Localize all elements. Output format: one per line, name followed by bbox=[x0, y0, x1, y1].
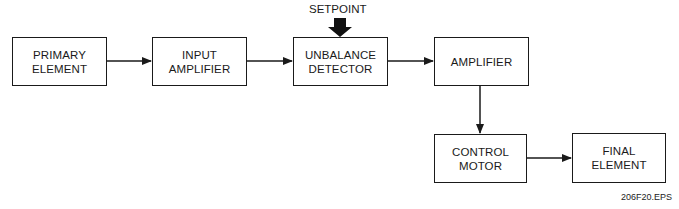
block-label: AMPLIFIER bbox=[451, 55, 513, 69]
setpoint-label: SETPOINT bbox=[309, 3, 367, 15]
figure-caption: 206F20.EPS bbox=[621, 192, 672, 202]
block-label: UNBALANCE DETECTOR bbox=[305, 48, 376, 76]
block-amplifier: AMPLIFIER bbox=[434, 37, 529, 86]
block-label: INPUT AMPLIFIER bbox=[169, 48, 231, 76]
block-label: CONTROL MOTOR bbox=[452, 145, 509, 173]
block-label: FINAL ELEMENT bbox=[591, 144, 646, 172]
setpoint-arrow-icon bbox=[328, 18, 352, 37]
block-final-element: FINAL ELEMENT bbox=[572, 133, 666, 183]
block-control-motor: CONTROL MOTOR bbox=[434, 134, 527, 183]
block-label: PRIMARY ELEMENT bbox=[32, 48, 87, 76]
block-unbalance-detector: UNBALANCE DETECTOR bbox=[293, 37, 388, 86]
block-primary-element: PRIMARY ELEMENT bbox=[12, 37, 107, 86]
block-input-amplifier: INPUT AMPLIFIER bbox=[152, 37, 247, 86]
block-diagram: SETPOINT PRIMARY ELEMENT INPUT AMPLIFIER… bbox=[0, 0, 679, 209]
